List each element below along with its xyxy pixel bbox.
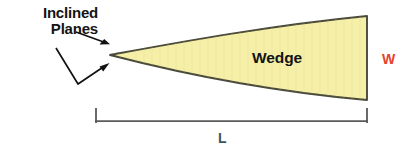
inclined-planes-label-line1: Inclined xyxy=(6,5,98,21)
width-dimension-label: W xyxy=(382,52,395,67)
wedge-label: Wedge xyxy=(252,50,302,67)
length-dimension-bracket xyxy=(96,109,367,122)
inclined-planes-label: Inclined Planes xyxy=(6,5,98,37)
length-dimension-label: L xyxy=(218,131,227,146)
wedge-diagram: Inclined Planes Wedge W L xyxy=(0,0,413,158)
lower-inclined-plane-arrow xyxy=(56,48,110,84)
inclined-planes-label-line2: Planes xyxy=(6,21,98,37)
